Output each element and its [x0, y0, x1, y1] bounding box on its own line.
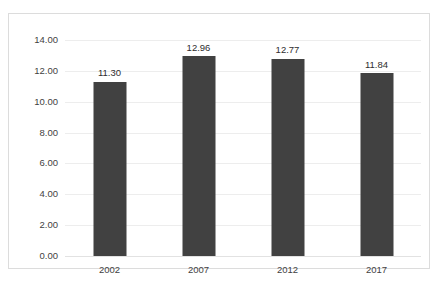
bar-group: 12.962007 [154, 40, 243, 256]
y-axis-tick-label: 8.00 [40, 128, 59, 138]
y-axis-tick-label: 6.00 [40, 159, 59, 169]
y-axis-tick-label: 2.00 [40, 220, 59, 230]
chart-frame: 14.0012.0010.008.006.004.002.000.00 11.3… [8, 13, 430, 269]
bar[interactable] [271, 59, 304, 256]
bar-value-label: 11.30 [98, 68, 121, 78]
bar-group: 11.842017 [332, 40, 421, 256]
y-axis-tick-label: 4.00 [40, 190, 59, 200]
bar[interactable] [93, 82, 126, 256]
plot-area: 14.0012.0010.008.006.004.002.000.00 11.3… [65, 40, 421, 256]
bar-group: 12.772012 [243, 40, 332, 256]
bars-layer: 11.30200212.96200712.77201211.842017 [65, 40, 421, 256]
y-axis-tick-label: 0.00 [40, 251, 59, 261]
bar-value-label: 11.84 [365, 60, 388, 70]
bar-group: 11.302002 [65, 40, 154, 256]
source-note [10, 272, 430, 281]
bar[interactable] [182, 56, 215, 256]
y-axis-tick-label: 12.00 [34, 66, 58, 76]
bar[interactable] [360, 73, 393, 256]
gridline-0-00 [65, 256, 421, 257]
bar-value-label: 12.96 [187, 43, 211, 53]
bar-value-label: 12.77 [276, 45, 300, 55]
y-axis-tick-label: 14.00 [34, 35, 58, 45]
y-axis-tick-label: 10.00 [34, 97, 58, 107]
